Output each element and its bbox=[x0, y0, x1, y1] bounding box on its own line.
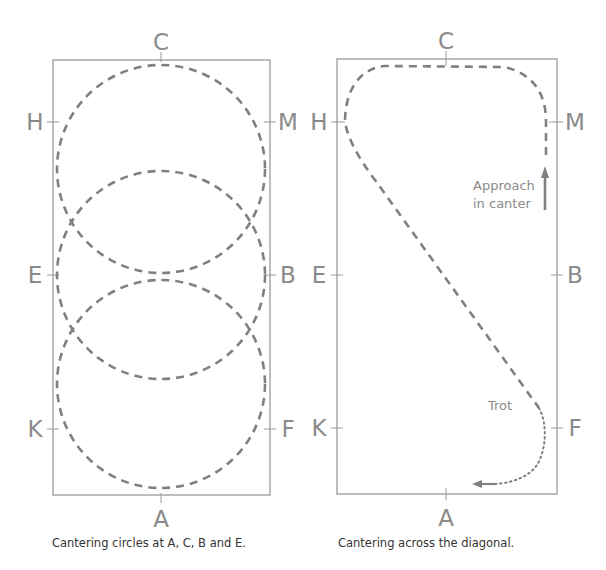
circle-at-A bbox=[57, 280, 265, 488]
arena-right: C A H M E B K F Approach in canter Trot bbox=[310, 28, 585, 531]
approach-label-line2: in canter bbox=[473, 196, 531, 211]
arena-left: C A H M E B K F bbox=[26, 29, 298, 532]
approach-label-line1: Approach bbox=[473, 178, 535, 193]
arrow-left-icon bbox=[472, 480, 482, 488]
arena-border bbox=[53, 60, 270, 495]
marker-K: K bbox=[27, 416, 43, 442]
caption-diagonal: Cantering across the diagonal. bbox=[338, 536, 514, 550]
trot-path bbox=[495, 408, 545, 484]
canter-path bbox=[345, 66, 546, 408]
trot-label: Trot bbox=[487, 398, 512, 413]
marker-C: C bbox=[438, 28, 454, 54]
caption-circles: Cantering circles at A, C, B and E. bbox=[52, 536, 246, 550]
marker-B: B bbox=[280, 262, 296, 288]
arrow-up-icon bbox=[541, 166, 549, 178]
marker-E: E bbox=[312, 262, 327, 288]
marker-M: M bbox=[565, 109, 585, 135]
marker-F: F bbox=[281, 416, 294, 442]
marker-H: H bbox=[310, 109, 327, 135]
marker-B: B bbox=[567, 262, 583, 288]
marker-K: K bbox=[311, 415, 327, 441]
circle-at-C bbox=[57, 65, 265, 273]
marker-C: C bbox=[153, 29, 169, 55]
marker-A: A bbox=[153, 506, 169, 532]
marker-M: M bbox=[278, 109, 298, 135]
marker-F: F bbox=[568, 415, 581, 441]
marker-A: A bbox=[438, 505, 454, 531]
marker-H: H bbox=[26, 109, 43, 135]
arena-border bbox=[337, 59, 557, 494]
circle-at-E-B bbox=[57, 171, 265, 379]
marker-E: E bbox=[28, 262, 43, 288]
arena-diagrams: C A H M E B K F C A H M E B K F bbox=[0, 0, 606, 570]
